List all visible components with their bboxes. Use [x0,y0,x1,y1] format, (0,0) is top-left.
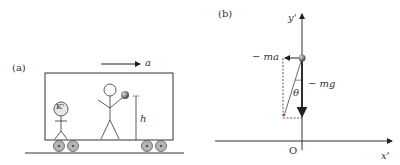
ball-icon [299,55,306,62]
y-axis-label: y' [288,12,296,23]
origin-label: O [289,145,297,156]
observer-label: K' [56,102,64,111]
resultant-tip [283,114,286,117]
ball-icon [121,91,129,99]
diagram-canvas [0,0,400,165]
person-holding-ball [98,84,122,139]
height-label: h [140,113,146,124]
angle-label: θ [293,87,299,98]
panel-a-label: (a) [12,62,26,73]
panel-a [25,64,184,153]
panel-b [215,14,392,150]
force-mg-label: − mg [308,78,335,89]
force-ma-label: − ma [252,51,279,62]
panel-b-label: (b) [218,8,232,19]
x-axis-label: x' [381,150,389,161]
wheels [54,141,167,152]
acceleration-label: a [145,57,151,68]
